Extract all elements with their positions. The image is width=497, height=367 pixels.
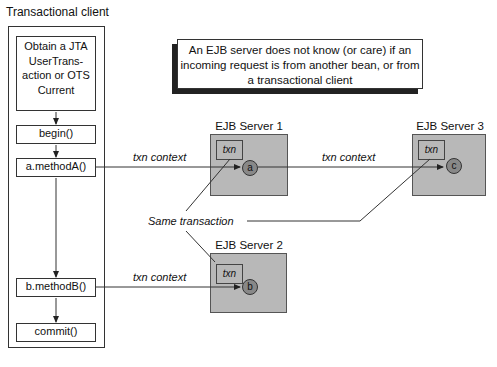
connector-lines — [0, 0, 497, 367]
